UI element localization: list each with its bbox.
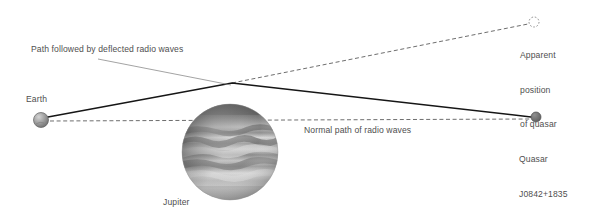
deflected-path-label: Path followed by deflected radio waves	[31, 44, 183, 56]
quasar-designation: J0842+1835	[519, 189, 568, 201]
quasar-name: Quasar	[519, 154, 568, 166]
apparent-position-line-2: position	[520, 85, 557, 97]
normal-path-line	[50, 119, 531, 121]
apparent-position-line-1: Apparent	[520, 50, 557, 62]
apparent-quasar-marker	[529, 17, 539, 27]
gravitational-lensing-diagram: Path followed by deflected radio waves N…	[0, 0, 607, 221]
deflected-path-leader-line	[98, 59, 231, 85]
jupiter-label: Jupiter	[163, 197, 190, 209]
apparent-sightline	[232, 24, 528, 83]
earth-body	[34, 113, 49, 128]
apparent-position-line-3: of quasar	[520, 119, 557, 131]
quasar-label: Quasar J0842+1835	[519, 131, 568, 221]
jupiter-body	[182, 104, 282, 200]
diagram-canvas	[0, 0, 607, 221]
earth-label: Earth	[26, 94, 47, 106]
deflected-path-line	[48, 83, 531, 117]
normal-path-label: Normal path of radio waves	[304, 125, 411, 137]
